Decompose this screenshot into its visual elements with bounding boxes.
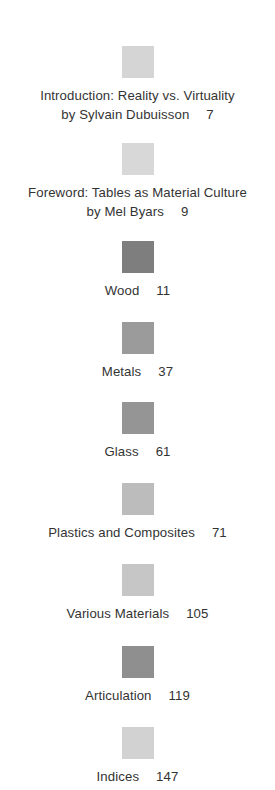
toc-entry-page-number: 119 [169, 687, 190, 706]
toc-entry-title: Indices [97, 769, 139, 784]
toc-entry-title: Metals [102, 364, 141, 379]
toc-entry-page-number: 37 [158, 363, 173, 382]
toc-entry[interactable]: Plastics and Composites71 [0, 483, 275, 543]
toc-entry[interactable]: Introduction: Reality vs. Virtuality by … [0, 46, 275, 124]
toc-entry-page-number: 105 [186, 605, 208, 624]
toc-entry[interactable]: Foreword: Tables as Material Culture by … [0, 143, 275, 221]
toc-entry-single-line: Wood11 [0, 282, 275, 301]
toc-entry-text: Glass61 [0, 443, 275, 462]
toc-entry-single-line: Metals37 [0, 363, 275, 382]
color-swatch [122, 727, 154, 759]
toc-entry-title: Various Materials [67, 606, 170, 621]
toc-entry-author: by Sylvain Dubuisson [61, 107, 189, 122]
color-swatch [122, 46, 154, 78]
toc-entry-text: Articulation119 [0, 687, 275, 706]
toc-entry[interactable]: Metals37 [0, 322, 275, 382]
toc-entry[interactable]: Indices147 [0, 727, 275, 787]
toc-entry-page-number: 61 [156, 443, 171, 462]
color-swatch [122, 402, 154, 434]
toc-entry-title: Glass [104, 444, 138, 459]
toc-entry-title: Articulation [85, 688, 151, 703]
toc-entry-single-line: Glass61 [0, 443, 275, 462]
toc-entry-page-number: 71 [212, 524, 227, 543]
toc-entry-single-line: Indices147 [0, 768, 275, 787]
toc-entry-single-line: Plastics and Composites71 [0, 524, 275, 543]
table-of-contents: Introduction: Reality vs. Virtuality by … [0, 0, 275, 790]
toc-entry-title: Plastics and Composites [48, 525, 195, 540]
toc-entry-text: Introduction: Reality vs. Virtuality by … [0, 87, 275, 124]
toc-entry-page-number: 11 [156, 282, 170, 301]
toc-entry-author: by Mel Byars [87, 204, 164, 219]
toc-entry-single-line: Articulation119 [0, 687, 275, 706]
toc-entry-text: Indices147 [0, 768, 275, 787]
toc-entry-subtitle-line: by Mel Byars9 [0, 203, 275, 222]
toc-entry[interactable]: Various Materials105 [0, 564, 275, 624]
toc-entry-title: Introduction: Reality vs. Virtuality [0, 87, 275, 106]
toc-entry[interactable]: Articulation119 [0, 646, 275, 706]
toc-entry-subtitle-line: by Sylvain Dubuisson7 [0, 106, 275, 125]
color-swatch [122, 322, 154, 354]
color-swatch [122, 241, 154, 273]
color-swatch [122, 646, 154, 678]
toc-entry[interactable]: Glass61 [0, 402, 275, 462]
toc-entry[interactable]: Wood11 [0, 241, 275, 301]
toc-entry-single-line: Various Materials105 [0, 605, 275, 624]
toc-entry-text: Plastics and Composites71 [0, 524, 275, 543]
toc-entry-page-number: 147 [156, 768, 178, 787]
toc-entry-text: Metals37 [0, 363, 275, 382]
toc-entry-text: Wood11 [0, 282, 275, 301]
toc-entry-text: Foreword: Tables as Material Culture by … [0, 184, 275, 221]
toc-entry-title: Wood [105, 283, 140, 298]
toc-entry-page-number: 7 [206, 106, 213, 125]
color-swatch [122, 564, 154, 596]
toc-entry-page-number: 9 [181, 203, 188, 222]
color-swatch [122, 483, 154, 515]
color-swatch [122, 143, 154, 175]
toc-entry-title: Foreword: Tables as Material Culture [0, 184, 275, 203]
toc-entry-text: Various Materials105 [0, 605, 275, 624]
